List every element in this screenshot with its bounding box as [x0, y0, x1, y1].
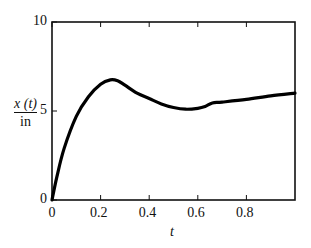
- y-axis-label: x (t) in: [14, 97, 37, 129]
- x-tick-label: 0.8: [236, 206, 254, 220]
- x-tick-label: 0.2: [90, 206, 108, 220]
- plot-frame: [52, 22, 295, 200]
- y-tick-label: 0: [40, 192, 47, 206]
- x-axis-label: t: [170, 225, 174, 239]
- x-tick-label: 0.6: [187, 206, 205, 220]
- x-tick-label: 0: [49, 206, 56, 220]
- tick-marks: [52, 22, 246, 200]
- data-line: [52, 80, 295, 200]
- x-tick-label: 0.4: [139, 206, 157, 220]
- y-tick-label: 10: [33, 14, 47, 28]
- y-tick-label: 5: [40, 103, 47, 117]
